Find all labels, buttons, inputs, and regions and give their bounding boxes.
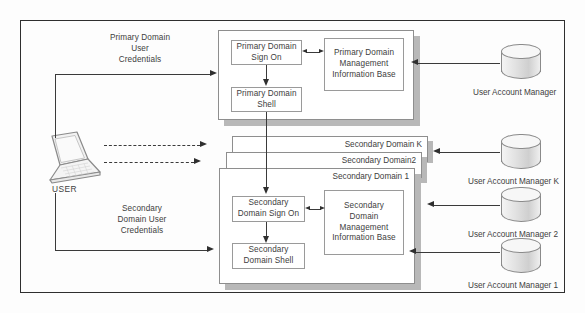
primary-domain-sign-on-box: Primary Domain Sign On xyxy=(231,40,302,65)
secondary-credentials-riser xyxy=(55,193,56,251)
secondary-domain-mib-box: Secondary Domain Management Information … xyxy=(324,190,404,255)
primary-signon-to-shell-line xyxy=(266,65,267,80)
primary-credentials-riser xyxy=(55,74,56,138)
uam-k-arrow xyxy=(433,148,440,154)
uam-1-arrow xyxy=(409,248,416,254)
primary-domain-shell-label: Primary Domain Shell xyxy=(236,89,296,111)
secondary-signon-to-shell-arrow xyxy=(263,236,269,243)
secondary-domain-2-shadow-right xyxy=(422,157,427,183)
user-account-manager-2-icon xyxy=(501,187,541,221)
secondary-signon-mib-arrow-left xyxy=(305,206,310,210)
secondary-domain-shell-box: Secondary Domain Shell xyxy=(232,243,305,269)
secondary-credentials-arrow xyxy=(207,246,214,252)
primary-signon-to-shell-arrow xyxy=(263,79,269,86)
user-account-manager-primary-icon xyxy=(501,44,541,78)
user-account-manager-k-icon xyxy=(501,134,541,168)
secondary-credentials-run xyxy=(55,250,208,251)
primary-credentials-arrow xyxy=(210,70,217,76)
primary-domain-mib-label: Primary Domain Management Information Ba… xyxy=(332,48,396,80)
secondary-domain-mib-label: Secondary Domain Management Information … xyxy=(332,201,396,244)
secondary-domain-1-label: Secondary Domain 1 xyxy=(305,172,409,181)
primary-domain-sign-on-label: Primary Domain Sign On xyxy=(236,42,296,64)
primary-shell-to-secondary-arrow xyxy=(263,187,269,194)
uam-1-link xyxy=(416,252,500,253)
uam-primary-link xyxy=(418,63,500,64)
user-account-manager-1-label: User Account Manager 1 xyxy=(468,281,558,292)
secondary-credentials-caption: Secondary Domain User Credentials xyxy=(82,203,202,236)
user-to-secondary-k-dashed xyxy=(104,145,200,146)
primary-domain-mib-box: Primary Domain Management Information Ba… xyxy=(324,38,404,91)
secondary-signon-mib-arrow-right xyxy=(320,206,325,210)
user-to-secondary-2-dashed xyxy=(104,162,194,163)
primary-domain-shell-box: Primary Domain Shell xyxy=(231,87,302,112)
diagram-canvas: Primary Domain Sign On Primary Domain Sh… xyxy=(0,0,585,313)
secondary-domain-sign-on-box: Secondary Domain Sign On xyxy=(232,196,305,222)
primary-credentials-run xyxy=(55,74,211,75)
secondary-domain-shell-label: Secondary Domain Shell xyxy=(244,245,294,267)
uam-k-link xyxy=(440,152,500,153)
secondary-domain-2-label: Secondary Domain2 xyxy=(312,156,416,165)
user-account-manager-1-icon xyxy=(501,238,541,272)
uam-primary-arrow xyxy=(411,59,418,65)
primary-domain-shadow-bottom xyxy=(224,120,420,126)
primary-signon-mib-arrow-right xyxy=(319,49,324,53)
primary-signon-mib-arrow-left xyxy=(302,49,307,53)
laptop-icon xyxy=(30,130,108,188)
primary-shell-to-secondary-line xyxy=(266,112,267,188)
primary-credentials-caption: Primary Domain User Credentials xyxy=(75,32,205,65)
secondary-domain-1-shadow-bottom xyxy=(225,284,421,290)
secondary-signon-to-shell-line xyxy=(266,222,267,237)
secondary-domain-1-shadow-right xyxy=(415,174,421,290)
primary-domain-shadow-right xyxy=(414,36,420,126)
user-to-secondary-2-arrow xyxy=(194,158,201,164)
secondary-domain-sign-on-label: Secondary Domain Sign On xyxy=(238,198,299,220)
uam-2-link xyxy=(434,205,500,206)
uam-2-arrow xyxy=(427,201,434,207)
secondary-domain-k-label: Secondary Domain K xyxy=(318,140,422,149)
user-to-secondary-k-arrow xyxy=(200,141,207,147)
primary-signon-mib-link xyxy=(306,52,320,53)
user-account-manager-primary-label: User Account Manager xyxy=(473,88,556,99)
